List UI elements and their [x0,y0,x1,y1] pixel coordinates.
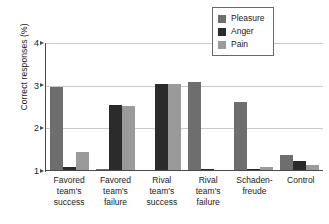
bar-chart: Correct responses (%) 1234 Favoredteam's… [0,0,329,224]
x-axis-label-line: Rival [139,175,185,186]
plot-area: 1234 [45,43,323,171]
x-axis-label-line: Schaden- [231,175,277,186]
bar-pain [122,106,135,170]
bar-pleasure [96,169,109,170]
bar-group [185,43,231,170]
bar-anger [201,169,214,170]
x-axis-label-line: failure [92,197,138,208]
legend-item: Pain [218,38,265,51]
legend: PleasureAngerPain [212,7,274,56]
y-tick-mark [40,41,44,45]
legend-label: Pleasure [231,14,265,23]
x-axis-label-line: team's [185,186,231,197]
x-axis-label: Rivalteam'sfailure [185,175,231,208]
x-axis-label: Schaden-freude [231,175,277,208]
x-axis-line [45,170,323,171]
bar-pleasure [50,87,63,170]
bar-group [231,43,277,170]
y-tick-mark [40,169,44,173]
legend-item: Pleasure [218,12,265,25]
x-axis-label-line: Favored [92,175,138,186]
bar-pain [260,167,273,170]
x-axis-label-line: success [46,197,92,208]
y-tick-label: 2 [34,124,39,133]
bar-pleasure [234,102,247,170]
legend-label: Pain [231,40,248,49]
bar-group [277,43,323,170]
x-axis-label: Favoredteam'sfailure [92,175,138,208]
y-tick-mark [40,126,44,130]
bar-pain [306,165,319,170]
x-axis-label-line: Rival [185,175,231,186]
x-axis-label-line: team's [139,186,185,197]
x-axis-label-line: Control [278,175,324,186]
legend-swatch-pain [218,41,226,49]
bar-pleasure [188,82,201,170]
x-axis-label-line: failure [185,197,231,208]
x-axis-label-line: Favored [46,175,92,186]
legend-swatch-anger [218,28,226,36]
bar-pain [168,84,181,170]
x-axis-label-line: success [139,197,185,208]
x-axis-label-line: freude [231,186,277,197]
bar-pleasure [280,155,293,170]
bar-anger [63,167,76,170]
bar-group [92,43,138,170]
x-axis-label: Control [278,175,324,208]
y-axis-title: Correct responses (%) [19,0,29,137]
x-axis-labels: Favoredteam'ssuccessFavoredteam'sfailure… [46,175,324,208]
legend-item: Anger [218,25,265,38]
y-tick-mark [40,83,44,87]
x-axis-label: Rivalteam'ssuccess [139,175,185,208]
bar-anger [247,169,260,170]
bar-groups [46,43,323,170]
legend-label: Anger [231,27,254,36]
bar-anger [155,84,168,170]
bar-anger [109,105,122,170]
x-axis-label: Favoredteam'ssuccess [46,175,92,208]
y-tick-label: 4 [34,39,39,48]
x-axis-label-line: team's [46,186,92,197]
legend-swatch-pleasure [218,15,226,23]
bar-anger [293,161,306,170]
bar-pain [76,152,89,170]
y-tick-label: 1 [34,167,39,176]
y-tick-label: 3 [34,81,39,90]
x-axis-label-line: team's [92,186,138,197]
bar-group [138,43,184,170]
bar-group [46,43,92,170]
